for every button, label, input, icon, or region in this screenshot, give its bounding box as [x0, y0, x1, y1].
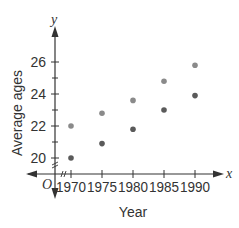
y-axis-arrow-up-icon	[52, 26, 59, 37]
y-axis-variable-label: y	[49, 12, 58, 27]
data-point-lower	[99, 141, 105, 147]
y-tick-label: 20	[30, 150, 46, 166]
data-point-lower	[68, 155, 74, 161]
scatter-chart: 20222426 19701975198019851990 y x O Aver…	[0, 0, 239, 228]
data-point-upper	[68, 123, 74, 129]
x-axis-variable-label: x	[225, 166, 233, 181]
x-tick-label: 1970	[56, 179, 86, 195]
y-axis-title: Average ages	[9, 70, 25, 156]
x-tick-label: 1980	[118, 179, 148, 195]
data-point-upper	[99, 110, 105, 116]
x-axis-arrow-right-icon	[213, 171, 224, 178]
data-point-lower	[161, 107, 167, 113]
x-axis-title: Year	[119, 204, 148, 220]
axes: 20222426 19701975198019851990	[26, 26, 224, 199]
x-tick-label: 1975	[87, 179, 117, 195]
y-tick-label: 26	[30, 54, 46, 70]
data-point-lower	[192, 93, 198, 99]
data-point-lower	[130, 126, 136, 132]
data-points	[68, 62, 198, 160]
data-point-upper	[130, 98, 136, 104]
origin-label: O	[42, 177, 52, 192]
x-axis-arrow-left-icon	[26, 171, 37, 178]
x-tick-label: 1985	[149, 179, 179, 195]
x-tick-label: 1990	[180, 179, 210, 195]
data-point-upper	[161, 78, 167, 84]
y-tick-label: 22	[30, 118, 46, 134]
data-point-upper	[192, 62, 198, 68]
y-tick-label: 24	[30, 86, 46, 102]
